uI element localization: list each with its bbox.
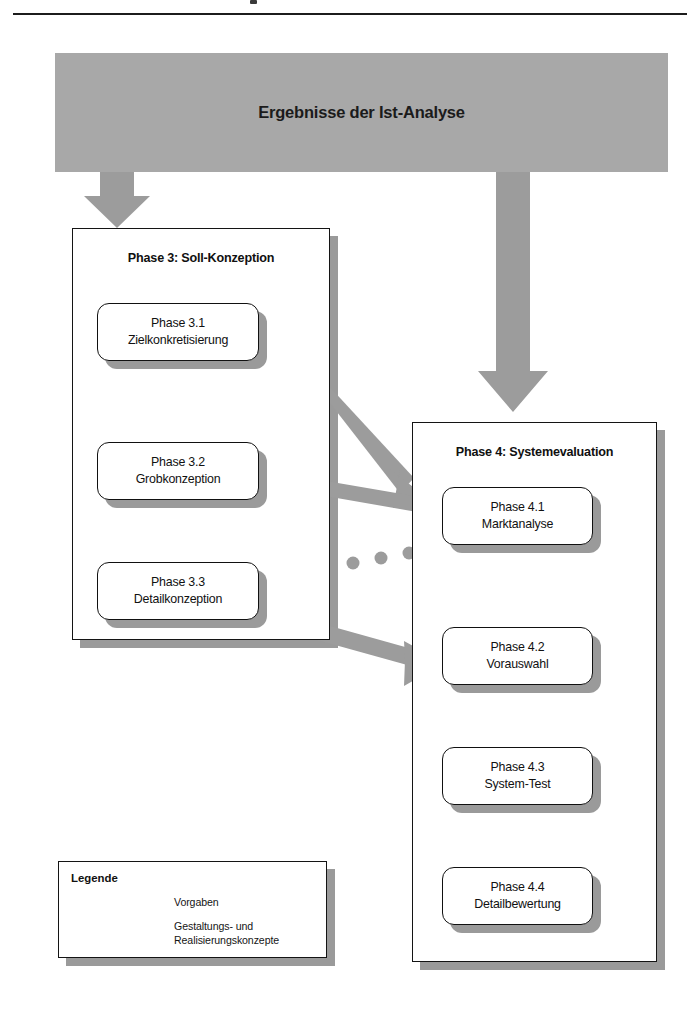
phase4-title: Phase 4: Systemevaluation [413,445,656,459]
ist-analyse-banner: Ergebnisse der Ist-Analyse [55,53,668,172]
node-4-3-line1: Phase 4.3 [490,759,544,776]
legend-entry-konzepte-line1: Gestaltungs- und [174,919,279,933]
node-3-2-line2: Grobkonzeption [136,471,221,488]
arrow-banner-to-phase4 [478,168,548,412]
banner-label: Ergebnisse der Ist-Analyse [55,53,668,172]
node-phase-3-2[interactable]: Phase 3.2 Grobkonzeption [97,442,259,500]
node-phase-4-1[interactable]: Phase 4.1 Marktanalyse [442,487,593,545]
arrow-banner-to-phase3 [84,168,150,228]
header-rule [13,13,687,15]
diagram-canvas: .g { fill: #9c9c9c; } .dk { stroke: #111… [0,0,700,1029]
node-4-4-line1: Phase 4.4 [490,879,544,896]
node-phase-4-4[interactable]: Phase 4.4 Detailbewertung [442,867,593,925]
node-phase-3-3[interactable]: Phase 3.3 Detailkonzeption [97,562,259,620]
legend-entry-konzepte-label: Gestaltungs- und Realisierungskonzepte [174,919,279,948]
node-3-3-line2: Detailkonzeption [134,591,222,608]
cropped-header-text [250,0,257,4]
node-3-1-line1: Phase 3.1 [151,315,205,332]
node-3-3-line1: Phase 3.3 [151,574,205,591]
legend-panel: Legende Vorgaben Gestaltungs- und Realis… [58,861,327,958]
legend-entry-vorgaben-label: Vorgaben [174,895,219,909]
node-4-1-line2: Marktanalyse [482,516,553,533]
node-phase-4-3[interactable]: Phase 4.3 System-Test [442,747,593,805]
node-3-1-line2: Zielkonkretisierung [128,332,228,349]
legend-title: Legende [71,872,118,884]
node-phase-3-1[interactable]: Phase 3.1 Zielkonkretisierung [97,303,259,361]
legend-entry-konzepte-line2: Realisierungskonzepte [174,933,279,947]
node-4-3-line2: System-Test [485,776,551,793]
node-3-2-line1: Phase 3.2 [151,454,205,471]
node-4-1-line1: Phase 4.1 [490,499,544,516]
node-4-4-line2: Detailbewertung [474,896,561,913]
node-4-2-line2: Vorauswahl [486,656,548,673]
node-phase-4-2[interactable]: Phase 4.2 Vorauswahl [442,627,593,685]
node-4-2-line1: Phase 4.2 [490,639,544,656]
phase3-title: Phase 3: Soll-Konzeption [73,251,329,265]
